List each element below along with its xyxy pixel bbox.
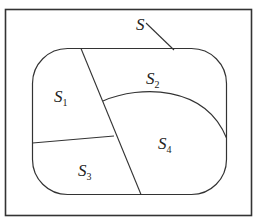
label-s2: S2 [146, 69, 160, 90]
divider-s1-s3 [33, 136, 115, 143]
label-s4: S4 [158, 134, 172, 155]
set-s-pointer-line [146, 23, 174, 50]
set-partition-diagram: S S1 S2 S3 S4 [0, 0, 256, 220]
label-s3: S3 [78, 161, 92, 182]
label-s1: S1 [54, 87, 68, 108]
label-s: S [136, 15, 145, 34]
divider-s2-s4-arc [103, 92, 227, 138]
set-s-boundary [33, 49, 227, 195]
